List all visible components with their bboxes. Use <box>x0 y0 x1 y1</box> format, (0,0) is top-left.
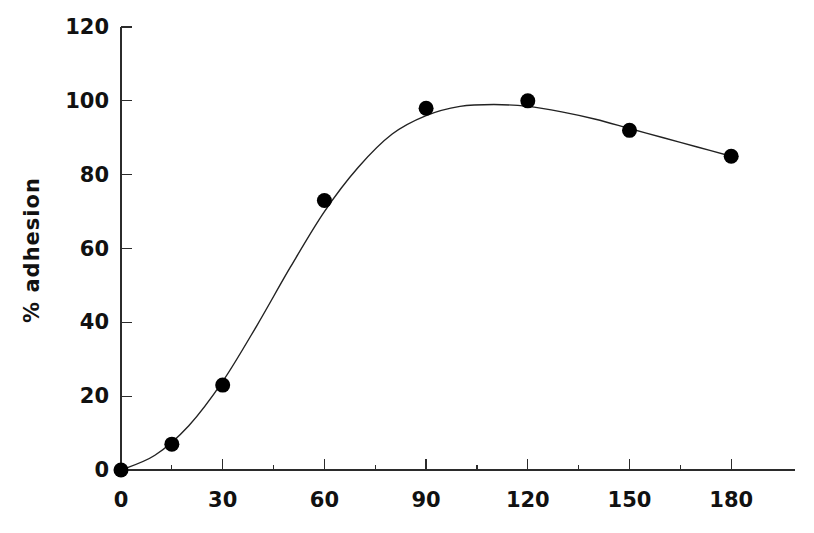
x-tick-label-0: 0 <box>114 488 129 512</box>
chart-figure: % adhesion 02040608010012003060901201501… <box>0 0 814 533</box>
plot-area <box>0 0 814 533</box>
fit-curve-path <box>121 105 731 470</box>
y-tick-label-60: 60 <box>80 237 109 261</box>
axes <box>121 27 795 470</box>
data-point-marker <box>419 101 434 116</box>
x-tick-label-120: 120 <box>506 488 550 512</box>
data-point-marker <box>164 437 179 452</box>
data-point-marker <box>724 149 739 164</box>
x-tick-label-60: 60 <box>310 488 339 512</box>
data-points <box>114 93 739 477</box>
y-tick-label-40: 40 <box>80 310 109 334</box>
data-point-marker <box>622 123 637 138</box>
data-point-marker <box>520 93 535 108</box>
y-tick-label-0: 0 <box>94 458 109 482</box>
y-tick-label-100: 100 <box>65 89 109 113</box>
x-tick-label-180: 180 <box>709 488 753 512</box>
data-point-marker <box>215 378 230 393</box>
x-tick-label-90: 90 <box>411 488 440 512</box>
y-tick-label-80: 80 <box>80 163 109 187</box>
fit-curve <box>121 105 731 470</box>
data-point-marker <box>114 463 129 478</box>
data-point-marker <box>317 193 332 208</box>
x-tick-label-150: 150 <box>608 488 652 512</box>
y-tick-label-120: 120 <box>65 15 109 39</box>
y-tick-label-20: 20 <box>80 384 109 408</box>
x-tick-label-30: 30 <box>208 488 237 512</box>
